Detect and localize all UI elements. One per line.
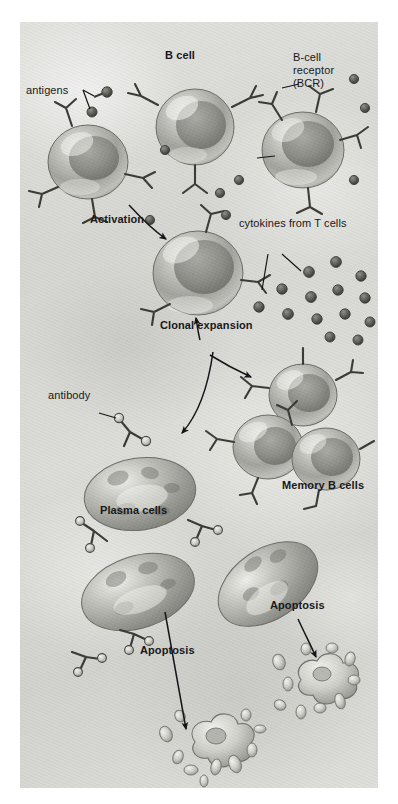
cytokine-leader-2 xyxy=(282,254,301,271)
antigen-icon xyxy=(94,87,112,97)
label-apoptosis-right: Apoptosis xyxy=(270,600,325,612)
b-cell-naive-left xyxy=(48,125,128,199)
label-bcr-line3: (BCR) xyxy=(293,78,324,90)
illustration-artwork xyxy=(20,22,378,788)
bcr-icon xyxy=(232,86,263,107)
bcr-icon xyxy=(128,84,158,105)
bcr-icon xyxy=(29,187,58,207)
plasma-cell-2 xyxy=(72,540,205,644)
label-apoptosis-left: Apoptosis xyxy=(140,645,195,657)
cell-group-memory xyxy=(233,364,360,490)
plasma-cell-1 xyxy=(80,451,201,538)
antigen-group xyxy=(87,87,112,117)
label-antibody: antibody xyxy=(48,390,90,402)
label-bcr-line1: B-cell xyxy=(293,52,321,64)
bcr-icon xyxy=(201,205,224,232)
antibody-icon xyxy=(114,413,150,446)
label-activation: Activation xyxy=(90,214,144,226)
label-plasma-cells: Plasma cells xyxy=(100,505,167,517)
antibody-icon xyxy=(188,520,222,546)
bcr-icon xyxy=(336,360,363,380)
b-cell-naive-right xyxy=(262,112,344,188)
label-memory-b-cells: Memory B cells xyxy=(282,480,364,492)
plasma-cell-3 xyxy=(203,524,333,644)
arrow-clonal-right xyxy=(210,355,251,377)
bcr-icon xyxy=(340,127,368,148)
cytokine-leader-1 xyxy=(262,254,268,290)
bcr-icon xyxy=(241,275,270,293)
bcr-icon xyxy=(360,441,374,449)
antibody-group xyxy=(72,413,222,676)
antigen-icon xyxy=(87,107,97,117)
apoptotic-debris-left xyxy=(157,708,266,787)
label-bcr-line2: receptor xyxy=(293,65,334,77)
bcr-icon xyxy=(206,431,234,450)
bcr-icon xyxy=(125,172,155,188)
label-cytokines: cytokines from T cells xyxy=(239,218,347,230)
bcr-icon xyxy=(297,188,322,214)
arrow-to-plasma xyxy=(182,352,213,433)
label-antigens: antigens xyxy=(26,85,68,97)
figure-root: antigens B cell B-cell receptor (BCR) Ac… xyxy=(0,0,398,804)
bcr-icon xyxy=(55,99,76,126)
antibody-leader xyxy=(99,413,116,418)
label-b-cell: B cell xyxy=(165,50,195,62)
illustration-canvas: antigens B cell B-cell receptor (BCR) Ac… xyxy=(20,22,378,788)
bcr-icon xyxy=(309,86,333,112)
label-clonal-expansion: Clonal expansion xyxy=(160,320,253,332)
antibody-icon xyxy=(72,652,106,676)
b-cell-activated xyxy=(153,231,243,315)
bcr-icon xyxy=(241,377,269,398)
bcr-icon xyxy=(240,478,258,504)
bcr-icon xyxy=(183,165,207,193)
bcr-icon xyxy=(304,490,319,509)
